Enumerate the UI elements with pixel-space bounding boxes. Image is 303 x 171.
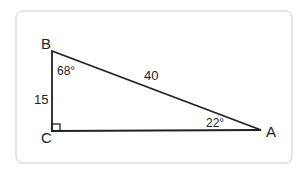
angle-label-a: 22° bbox=[206, 116, 224, 130]
side-label-bc: 15 bbox=[34, 92, 48, 107]
vertex-label-a: A bbox=[266, 123, 276, 140]
vertex-label-b: B bbox=[41, 35, 51, 52]
triangle-diagram: B C A 15 40 68° 22° bbox=[0, 0, 303, 171]
diagram-frame bbox=[16, 11, 292, 163]
side-label-ab: 40 bbox=[144, 68, 158, 83]
angle-label-b: 68° bbox=[57, 64, 75, 78]
vertex-label-c: C bbox=[41, 129, 52, 146]
